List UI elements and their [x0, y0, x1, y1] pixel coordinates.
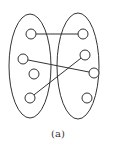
- node-L2: [18, 54, 28, 64]
- node-L4: [25, 93, 35, 103]
- figure-caption: (a): [0, 128, 116, 139]
- node-L3: [29, 69, 39, 79]
- node-R4: [82, 93, 92, 103]
- bipartite-diagram: [0, 0, 116, 149]
- node-L1: [26, 29, 36, 39]
- node-R2: [80, 50, 90, 60]
- node-R3: [89, 68, 99, 78]
- set-ellipse-right: [57, 13, 99, 119]
- node-R1: [78, 29, 88, 39]
